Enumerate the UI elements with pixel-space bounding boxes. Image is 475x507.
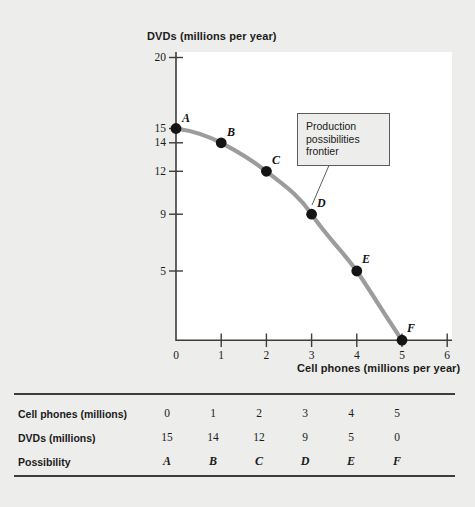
ppf-figure: DVDs (millions per year) Cell phones (mi… xyxy=(0,0,475,507)
table-bottom-rule xyxy=(14,475,455,477)
point-label-d: D xyxy=(317,196,326,211)
table-cell-r0-c2: 2 xyxy=(246,407,272,419)
y-tick-label-9: 9 xyxy=(140,208,166,220)
table-row-label-cell-phones: Cell phones (millions) xyxy=(18,408,127,420)
table-row-label-possibility: Possibility xyxy=(18,456,71,468)
x-tick-label-3: 3 xyxy=(302,349,322,361)
data-table: Cell phones (millions) 0 1 2 3 4 5 DVDs … xyxy=(0,385,475,507)
table-cell-r2-c0: A xyxy=(154,454,180,469)
y-tick-label-20: 20 xyxy=(140,51,166,63)
x-tick-label-5: 5 xyxy=(392,349,412,361)
x-tick-label-1: 1 xyxy=(211,349,231,361)
table-cell-r2-c5: F xyxy=(384,454,410,469)
data-point-b xyxy=(216,137,227,148)
y-tick-label-15: 15 xyxy=(140,122,166,134)
x-tick-label-0: 0 xyxy=(166,349,186,361)
point-label-f: F xyxy=(407,321,415,336)
table-cell-r2-c1: B xyxy=(200,454,226,469)
data-point-c xyxy=(261,166,272,177)
table-cell-r0-c0: 0 xyxy=(154,407,180,419)
y-tick-label-12: 12 xyxy=(140,165,166,177)
callout-line-1: Production xyxy=(306,120,382,133)
callout-line-3: frontier xyxy=(306,145,382,158)
table-cell-r0-c5: 5 xyxy=(384,407,410,419)
point-label-b: B xyxy=(227,125,235,140)
data-point-a xyxy=(171,123,182,134)
point-label-a: A xyxy=(182,111,190,126)
table-cell-r0-c4: 4 xyxy=(338,407,364,419)
data-point-e xyxy=(351,266,362,277)
ppf-callout-box: Production possibilities frontier xyxy=(297,113,390,166)
chart-graphics xyxy=(0,0,475,385)
data-point-f xyxy=(397,335,408,346)
table-cell-r1-c3: 9 xyxy=(292,431,318,443)
table-cell-r2-c4: E xyxy=(338,454,364,469)
table-cell-r2-c2: C xyxy=(246,454,272,469)
table-cell-r1-c4: 5 xyxy=(338,431,364,443)
table-top-rule xyxy=(14,393,455,395)
y-tick-label-14: 14 xyxy=(140,136,166,148)
callout-line-2: possibilities xyxy=(306,133,382,146)
table-cell-r1-c1: 14 xyxy=(200,431,226,443)
x-tick-label-4: 4 xyxy=(347,349,367,361)
table-cell-r0-c1: 1 xyxy=(200,407,226,419)
chart-area: DVDs (millions per year) Cell phones (mi… xyxy=(0,0,475,385)
point-label-e: E xyxy=(362,252,370,267)
y-tick-label-5: 5 xyxy=(140,265,166,277)
table-cell-r2-c3: D xyxy=(292,454,318,469)
table-row-label-dvds: DVDs (millions) xyxy=(18,432,96,444)
table-cell-r1-c0: 15 xyxy=(154,431,180,443)
x-tick-label-6: 6 xyxy=(437,349,457,361)
x-tick-label-2: 2 xyxy=(256,349,276,361)
table-cell-r0-c3: 3 xyxy=(292,407,318,419)
point-label-c: C xyxy=(272,153,280,168)
table-cell-r1-c2: 12 xyxy=(246,431,272,443)
table-cell-r1-c5: 0 xyxy=(384,431,410,443)
data-point-d xyxy=(306,209,317,220)
